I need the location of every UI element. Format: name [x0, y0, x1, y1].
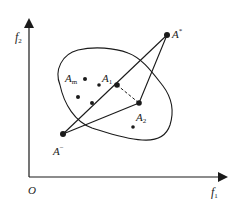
scatter-point — [131, 125, 135, 129]
label-a2: A2 — [135, 111, 147, 125]
label-anti-ideal: A− — [52, 144, 64, 157]
scatter-point — [76, 95, 80, 99]
point-anti-ideal — [60, 131, 66, 137]
point-am — [83, 77, 87, 81]
point-a2 — [136, 100, 142, 106]
line-a2-to-ideal — [139, 35, 167, 103]
y-axis-label: f2 — [15, 30, 22, 45]
origin-label: O — [28, 184, 36, 196]
line-a1-to-a2-dashed — [117, 85, 139, 103]
label-ideal: A* — [171, 27, 183, 40]
feasible-region-boundary — [58, 48, 172, 140]
scatter-point — [97, 83, 101, 87]
x-axis-label: f1 — [211, 185, 218, 200]
point-ideal — [164, 32, 170, 38]
line-anti-ideal-to-a2 — [63, 103, 139, 134]
label-am: Am — [64, 72, 78, 86]
diagram-canvas: f2 f1 O A* A− A1 A2 Am — [0, 0, 239, 209]
label-a1: A1 — [101, 72, 113, 86]
point-a1 — [114, 82, 120, 88]
scatter-point — [90, 101, 94, 105]
